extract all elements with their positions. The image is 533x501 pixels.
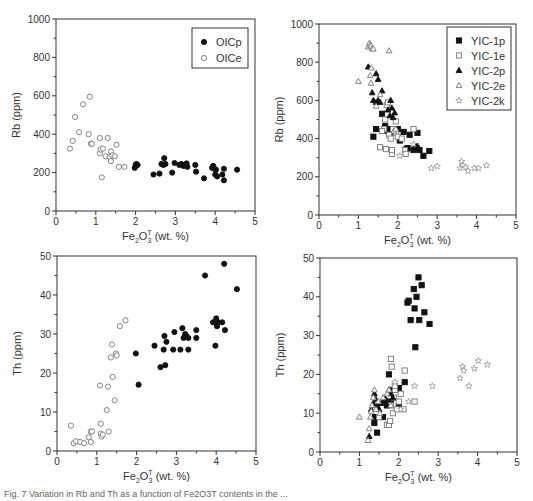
data-point-filled-square [417,317,422,322]
legend-label: YIC-2e [471,80,505,92]
data-point-filled-circle [222,261,227,266]
plot-frame [57,256,256,451]
y-tick-label: 50 [303,253,315,264]
data-point-open-star [466,383,472,389]
data-point-open-square [398,391,403,396]
y-tick-label: 200 [33,167,50,178]
data-point-open-circle [98,421,103,426]
data-point-filled-square [411,286,416,291]
data-point-filled-circle [220,172,225,177]
y-tick-label: 40 [40,290,52,301]
data-point-filled-circle [193,162,198,167]
series-oice [67,94,127,180]
data-point-filled-square [402,380,407,385]
y-tick-label: 1000 [28,14,51,25]
data-point-filled-square [419,283,424,288]
data-point-open-circle [112,398,117,403]
data-point-filled-circle [151,172,156,177]
data-point-open-circle [73,114,78,119]
x-axis-label: Fe2O3T (wt. %) [122,229,189,244]
data-point-filled-circle [234,287,239,292]
data-point-filled-circle [220,320,225,325]
data-point-filled-square [421,153,426,158]
data-point-filled-circle [213,343,218,348]
y-tick-label: 20 [303,369,315,380]
y-axis-label: Rb (ppm) [273,97,285,143]
y-tick-label: 30 [40,329,52,340]
data-point-filled-square [412,306,417,311]
data-point-open-circle [106,429,111,434]
data-point-open-square [403,151,408,156]
x-axis-label: Fe2O3T (wt. %) [385,470,452,485]
data-point-open-star [484,361,491,367]
x-tick-label: 1 [93,216,99,227]
data-point-open-circle [81,441,86,446]
legend-label: YIC-2k [471,95,505,107]
data-point-filled-triangle [366,433,372,438]
data-point-open-circle [76,130,81,135]
y-tick-label: 600 [296,95,313,106]
x-tick-label: 3 [173,216,179,227]
data-point-filled-square [375,430,380,435]
series-oicp [133,261,239,387]
legend-top-right: YIC-1pYIC-1eYIC-2pYIC-2eYIC-2k [447,27,511,110]
data-point-filled-circle [194,335,199,340]
data-point-filled-circle [222,328,227,333]
data-point-filled-square [427,321,432,326]
data-point-filled-triangle [373,71,379,76]
data-point-filled-circle [163,363,168,368]
data-point-filled-square [379,111,384,116]
data-point-open-circle [114,353,119,358]
data-point-filled-circle [136,382,141,387]
data-point-filled-circle [213,167,218,172]
legend-label: OICe [216,52,242,64]
y-axis-label: Rb (ppm) [10,92,22,138]
x-tick-label: 4 [475,457,481,468]
data-point-filled-triangle [375,76,381,81]
figure-canvas: 01234502004006008001000Fe2O3T (wt. %)Rb … [0,0,533,501]
data-point-filled-circle [157,171,162,176]
x-axis-label: Fe2O3T (wt. %) [123,469,190,484]
data-point-filled-circle [171,347,176,352]
y-axis-label: Th (ppm) [274,333,286,378]
data-point-open-circle [109,342,114,347]
x-tick-label: 4 [212,216,218,227]
data-point-open-star [411,383,418,389]
data-point-open-circle [201,55,206,60]
data-point-open-circle [99,175,104,180]
data-point-open-star [428,165,434,171]
data-point-open-star [405,398,412,404]
data-point-filled-circle [201,176,206,181]
data-point-open-circle [116,164,121,169]
x-tick-label: 1 [94,456,100,467]
data-point-open-square [377,145,382,150]
data-point-filled-triangle [369,90,375,95]
x-tick-label: 4 [474,220,480,231]
data-point-open-circle [104,407,109,412]
series-oice [68,318,128,446]
data-point-filled-circle [135,162,140,167]
data-point-filled-circle [215,174,220,179]
y-tick-label: 400 [33,129,50,140]
legend-label: YIC-2p [471,65,505,77]
data-point-filled-circle [161,347,166,352]
y-tick-label: 10 [303,408,315,419]
x-tick-label: 5 [252,216,258,227]
y-tick-label: 10 [40,407,52,418]
data-point-filled-square [422,310,427,315]
data-point-filled-square [407,132,412,137]
data-point-open-star [459,363,465,369]
data-point-filled-circle [221,166,226,171]
data-point-open-circle [108,355,113,360]
data-point-open-circle [110,374,115,379]
data-point-open-circle [117,324,122,329]
data-point-open-triangle [372,387,378,392]
data-point-open-star [475,357,481,363]
data-point-open-circle [97,383,102,388]
y-tick-label: 0 [45,446,51,457]
legend-label: YIC-1p [471,35,505,47]
data-point-filled-circle [162,333,167,338]
data-point-filled-circle [221,178,226,183]
data-point-open-square [389,147,394,152]
data-point-open-square [396,399,401,404]
